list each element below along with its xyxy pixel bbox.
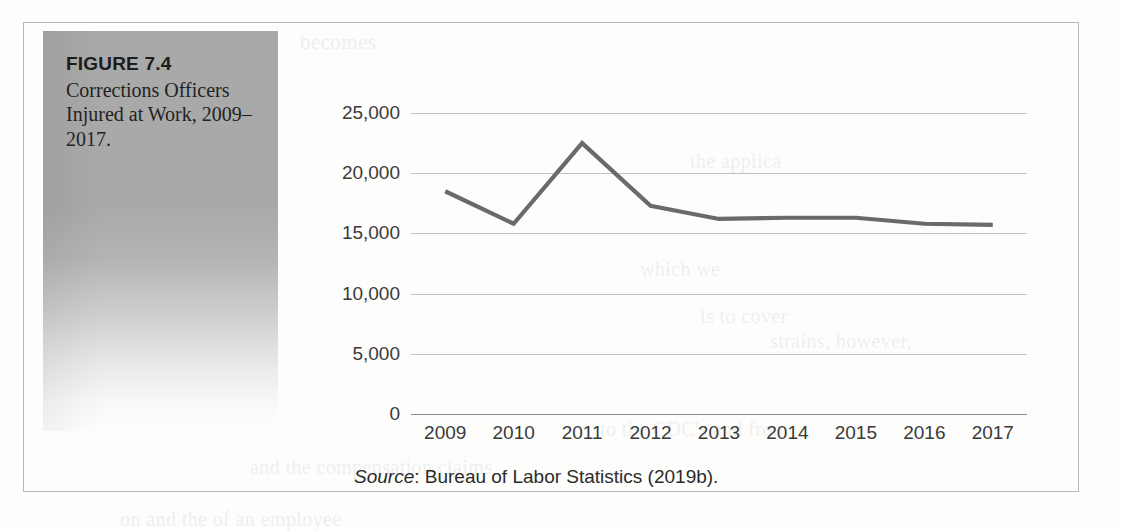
chart-series-line (411, 113, 1027, 414)
chart-y-tick-label: 10,000 (342, 283, 400, 305)
chart-x-tick-label: 2010 (493, 422, 535, 444)
series-polyline (445, 143, 993, 225)
chart-y-tick-label: 5,000 (352, 343, 400, 365)
chart-y-tick-label: 20,000 (342, 162, 400, 184)
figure-number-label: FIGURE 7.4 (66, 53, 264, 75)
chart-x-tick-label: 2013 (698, 422, 740, 444)
line-chart: 05,00010,00015,00020,00025,000 200920102… (301, 53, 1091, 493)
figure-caption-panel: FIGURE 7.4 Corrections Officers Injured … (43, 31, 278, 431)
chart-x-tick-label: 2016 (903, 422, 945, 444)
source-citation: : Bureau of Labor Statistics (2019b). (414, 466, 718, 487)
chart-x-tick-label: 2015 (835, 422, 877, 444)
chart-gridline (411, 414, 1027, 415)
source-label: Source (354, 466, 414, 487)
chart-x-tick-label: 2017 (972, 422, 1014, 444)
chart-x-axis-labels: 200920102011201220132014201520162017 (411, 422, 1027, 448)
chart-x-tick-label: 2014 (766, 422, 808, 444)
chart-y-tick-label: 25,000 (342, 102, 400, 124)
chart-y-tick-label: 0 (389, 403, 400, 425)
chart-y-tick-label: 15,000 (342, 222, 400, 244)
bleed-text: on and the of an employee (120, 508, 342, 531)
figure-source-note: Source: Bureau of Labor Statistics (2019… (354, 466, 718, 488)
chart-plot-area: 05,00010,00015,00020,00025,000 (411, 113, 1027, 414)
chart-x-tick-label: 2009 (424, 422, 466, 444)
chart-x-tick-label: 2011 (562, 422, 603, 444)
figure-container: FIGURE 7.4 Corrections Officers Injured … (23, 22, 1079, 492)
figure-caption-text: Corrections Officers Injured at Work, 20… (66, 78, 264, 151)
chart-x-tick-label: 2012 (629, 422, 671, 444)
